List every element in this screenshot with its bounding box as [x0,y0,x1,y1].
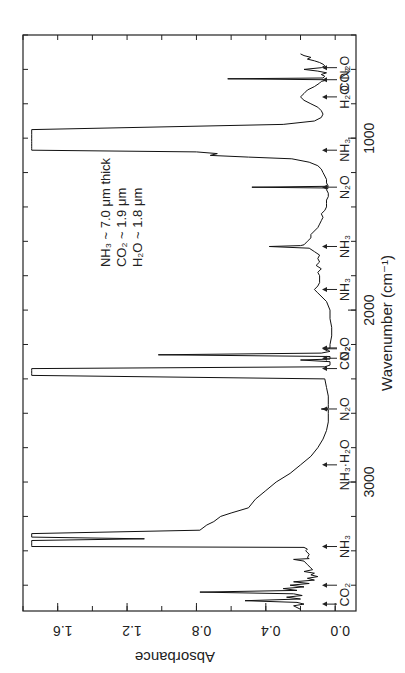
band-label: NH₃ [338,535,352,558]
absorbance-spectrum-chart: 0.00.40.81.21.6 100020003000 CO₂NH₃NH₃·H… [0,0,405,673]
band-label: N₂O [338,175,352,199]
wavenumber-axis: 100020003000 [23,35,377,585]
band-label: CO₂ [338,583,352,607]
band-arrow-head [322,148,327,153]
plot-frame [23,35,356,611]
band-arrow-head [322,462,327,467]
band-arrow-head [322,287,327,292]
band-arrow-head [322,185,327,190]
wavenumber-tick-label: 2000 [361,294,377,325]
band-label: N₂O [338,337,352,361]
band-arrow-head [322,94,327,99]
x-axis-label: Wavenumber (cm⁻¹) [378,255,395,391]
band-label: NH₃ [338,278,352,301]
band-label: NH₃ [338,235,352,258]
thickness-annotation: NH₃ ~ 7.0 μm thickCO₂ ~ 1.9 μmH₂O ~ 1.8 … [98,157,145,267]
band-label: N₂O [338,56,352,80]
annotation-line: CO₂ ~ 1.9 μm [114,188,129,267]
band-arrow-head [322,244,327,249]
wavenumber-tick-label: 3000 [361,466,377,497]
absorbance-tick-label: 0.4 [261,623,281,639]
absorbance-tick-label: 1.2 [122,623,142,639]
y-axis-label: Absorbance [135,649,215,666]
wavenumber-tick-label: 1000 [361,122,377,153]
absorbance-axis: 0.00.40.81.21.6 [23,35,350,639]
band-labels: CO₂NH₃NH₃·H₂ON₂OCO₂N₂ONH₃NH₃N₂ONH₃H₂OCO₂… [322,56,352,607]
band-label: NH₃ [338,139,352,162]
annotation-line: H₂O ~ 1.8 μm [130,188,145,267]
band-arrow-head [322,583,327,588]
absorbance-tick-label: 1.6 [53,623,73,639]
annotation-line: NH₃ ~ 7.0 μm thick [98,157,113,267]
band-label: N₂O [338,397,352,421]
absorbance-tick-label: 0.8 [191,623,211,639]
band-arrow-head [322,544,327,549]
absorbance-tick-label: 0.0 [330,623,350,639]
band-arrow-head [322,602,327,607]
band-label: NH₃·H₂O [338,439,352,490]
band-arrow-head [322,406,327,411]
spectrum-line [32,54,332,609]
